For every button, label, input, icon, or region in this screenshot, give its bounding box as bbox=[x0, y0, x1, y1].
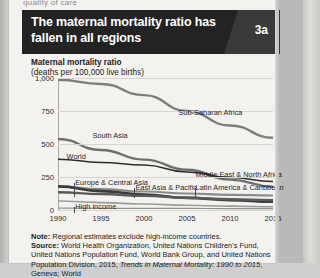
paper-sheet: quality of care The maternal mortality r… bbox=[9, 0, 275, 263]
y-axis-title-main: Maternal mortality ratio bbox=[31, 58, 122, 67]
y-axis-tick: 750 bbox=[41, 107, 54, 116]
series-label: High income bbox=[75, 202, 116, 211]
label-leader-line bbox=[134, 188, 135, 198]
series-label: Sub-Saharan Africa bbox=[178, 108, 242, 117]
x-axis-tick: 2005 bbox=[179, 214, 196, 223]
series-label: Middle East & North Africa bbox=[196, 170, 282, 179]
page-edge-right bbox=[303, 0, 320, 263]
gridline bbox=[58, 144, 273, 145]
series-label: Latin America & Caribbean bbox=[196, 183, 284, 192]
series-label: World bbox=[67, 152, 86, 161]
figure-3a: The maternal mortality ratio has fallen … bbox=[22, 10, 280, 257]
source-title: Trends in Maternal Mortality: 1990 to 20… bbox=[120, 260, 260, 269]
note-text: Regional estimates exclude high-income c… bbox=[50, 232, 221, 241]
x-axis-tick: 2000 bbox=[136, 214, 153, 223]
figure-header-right-panel bbox=[224, 10, 280, 54]
series-label: South Asia bbox=[92, 131, 127, 140]
chart-plot-area: 02505007501,000199019952000200520102015S… bbox=[58, 78, 273, 210]
page-edge-left bbox=[0, 0, 9, 263]
figure-header: The maternal mortality ratio has fallen … bbox=[22, 10, 280, 54]
x-axis-tick: 1990 bbox=[50, 214, 67, 223]
label-leader-line bbox=[74, 183, 75, 197]
cut-text-above-figure: quality of care bbox=[23, 0, 173, 8]
label-leader-line bbox=[74, 207, 75, 213]
y-axis-tick: 1,000 bbox=[35, 74, 54, 83]
y-axis-tick: 500 bbox=[41, 140, 54, 149]
x-axis-tick: 2015 bbox=[265, 214, 282, 223]
x-axis-tick: 2010 bbox=[222, 214, 239, 223]
source-label: Source: bbox=[31, 241, 59, 250]
y-axis-tick: 250 bbox=[41, 173, 54, 182]
figure-title: The maternal mortality ratio has fallen … bbox=[31, 15, 231, 46]
figure-footnote: Note: Regional estimates exclude high-in… bbox=[31, 232, 278, 278]
note-label: Note: bbox=[31, 232, 50, 241]
y-axis-title: Maternal mortality ratio (deaths per 100… bbox=[31, 58, 231, 77]
series-label: East Asia & Pacific bbox=[135, 183, 197, 192]
label-leader-line bbox=[195, 188, 196, 198]
x-axis-tick: 1995 bbox=[93, 214, 110, 223]
gridline bbox=[58, 78, 273, 79]
figure-badge: 3a bbox=[255, 23, 268, 37]
